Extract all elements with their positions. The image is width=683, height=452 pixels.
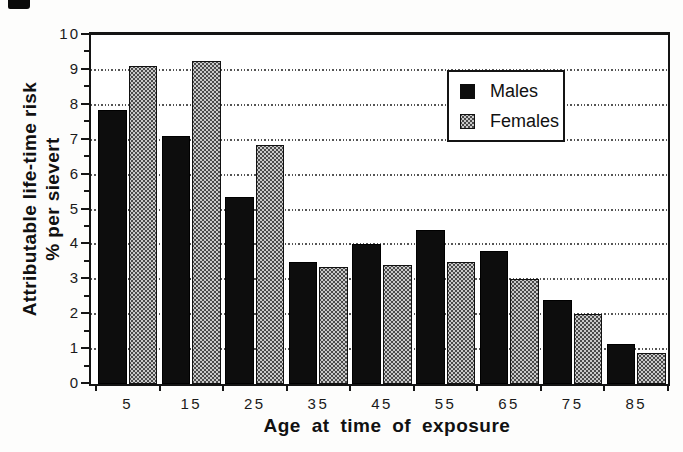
- bar-females-45: [383, 265, 412, 384]
- y-minor-tick-3.5: [84, 260, 89, 262]
- y-major-tick-5: [81, 208, 89, 210]
- legend-label-females: Females: [490, 111, 559, 132]
- y-tick-label-7: 7: [34, 130, 80, 148]
- bar-females-35: [319, 267, 348, 384]
- y-minor-tick-8.5: [84, 85, 89, 87]
- y-major-tick-0: [81, 382, 89, 384]
- x-boundary-tick-7: [540, 384, 542, 391]
- x-boundary-tick-9: [667, 384, 669, 391]
- bar-males-15: [162, 136, 191, 384]
- y-major-tick-1: [81, 347, 89, 349]
- y-major-tick-6: [81, 173, 89, 175]
- y-tick-label-3: 3: [34, 269, 80, 287]
- x-tick-label-35: 35: [287, 396, 349, 412]
- females-swatch-icon: [460, 114, 475, 129]
- x-tick-label-85: 85: [605, 396, 667, 412]
- y-minor-tick-1.5: [84, 330, 89, 332]
- bar-group-35: [287, 35, 351, 384]
- bar-males-25: [225, 197, 254, 384]
- y-tick-label-5: 5: [34, 200, 80, 218]
- x-tick-label-45: 45: [351, 396, 413, 412]
- bar-males-45: [352, 244, 381, 384]
- x-boundary-tick-8: [603, 384, 605, 391]
- x-tick-label-15: 15: [160, 396, 222, 412]
- bar-group-25: [223, 35, 287, 384]
- y-minor-tick-0.5: [84, 365, 89, 367]
- x-tick-label-25: 25: [224, 396, 286, 412]
- bar-group-45: [350, 35, 414, 384]
- bar-males-65: [480, 251, 509, 384]
- y-tick-label-1: 1: [34, 339, 80, 357]
- y-major-tick-3: [81, 277, 89, 279]
- bar-females-85: [637, 353, 666, 384]
- y-major-tick-4: [81, 242, 89, 244]
- y-tick-label-2: 2: [34, 304, 80, 322]
- y-minor-tick-6.5: [84, 155, 89, 157]
- scan-artifact-mark: [8, 0, 30, 9]
- plot-area: Males Females: [89, 32, 670, 386]
- x-boundary-tick-3: [286, 384, 288, 391]
- x-boundary-tick-0: [95, 384, 97, 391]
- figure-canvas: Attributable life-time risk % per siever…: [0, 0, 683, 452]
- y-major-tick-7: [81, 138, 89, 140]
- y-minor-tick-4.5: [84, 225, 89, 227]
- x-axis-title: Age at time of exposure: [232, 415, 542, 437]
- bar-males-5: [98, 110, 127, 384]
- bar-females-5: [129, 66, 158, 384]
- x-tick-label-55: 55: [415, 396, 477, 412]
- y-major-tick-2: [81, 312, 89, 314]
- x-tick-label-5: 5: [97, 396, 159, 412]
- bar-group-85: [604, 35, 668, 384]
- y-minor-tick-2.5: [84, 295, 89, 297]
- y-tick-label-8: 8: [34, 95, 80, 113]
- y-major-tick-9: [81, 68, 89, 70]
- bar-females-15: [192, 61, 221, 384]
- y-tick-label-0: 0: [34, 374, 80, 392]
- legend-item-males: Males: [460, 81, 563, 102]
- x-tick-label-65: 65: [478, 396, 540, 412]
- bar-females-75: [574, 314, 603, 384]
- bar-females-55: [447, 262, 476, 384]
- y-minor-tick-9.5: [84, 50, 89, 52]
- y-major-tick-8: [81, 103, 89, 105]
- y-tick-label-9: 9: [34, 60, 80, 78]
- x-boundary-tick-6: [476, 384, 478, 391]
- x-boundary-tick-1: [159, 384, 161, 391]
- y-minor-tick-7.5: [84, 120, 89, 122]
- y-tick-label-6: 6: [34, 165, 80, 183]
- y-tick-label-4: 4: [34, 234, 80, 252]
- x-tick-label-75: 75: [542, 396, 604, 412]
- x-boundary-tick-5: [413, 384, 415, 391]
- y-major-tick-10: [81, 33, 89, 35]
- bar-females-65: [510, 279, 539, 384]
- legend: Males Females: [447, 70, 565, 142]
- bar-group-5: [96, 35, 160, 384]
- bar-males-75: [543, 300, 572, 384]
- bar-males-55: [416, 230, 445, 384]
- males-swatch-icon: [460, 84, 475, 99]
- y-minor-tick-5.5: [84, 190, 89, 192]
- x-boundary-tick-4: [349, 384, 351, 391]
- x-boundary-tick-2: [222, 384, 224, 391]
- bar-males-35: [289, 262, 318, 384]
- legend-label-males: Males: [490, 81, 538, 102]
- bar-males-85: [607, 344, 636, 384]
- bar-group-15: [160, 35, 224, 384]
- legend-item-females: Females: [460, 111, 563, 132]
- bar-females-25: [256, 145, 285, 384]
- y-tick-label-10: 10: [34, 25, 80, 43]
